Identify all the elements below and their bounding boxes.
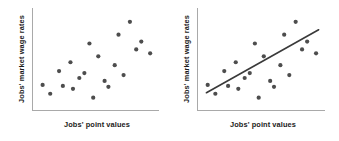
data-point (116, 33, 120, 37)
data-point (61, 84, 65, 88)
data-point (253, 41, 257, 45)
data-point (71, 87, 75, 91)
data-point (314, 51, 318, 55)
data-point (57, 69, 61, 73)
data-point (213, 92, 217, 96)
data-point (96, 54, 100, 58)
data-point (268, 79, 272, 83)
data-point (121, 73, 125, 77)
chart-panel-right: Jobs' point values Jobs' market wage rat… (169, 0, 339, 141)
data-point (248, 71, 252, 75)
data-point (234, 60, 238, 64)
data-point (287, 73, 291, 77)
data-point (128, 20, 132, 24)
data-point (41, 83, 45, 87)
data-point (300, 47, 304, 51)
scatter-plot-figure: Jobs' point values Jobs' market wage rat… (0, 0, 339, 141)
data-point (77, 76, 81, 80)
data-point (82, 71, 86, 75)
data-point (222, 69, 226, 73)
data-point (262, 54, 266, 58)
data-points-right (206, 20, 319, 100)
data-point (282, 33, 286, 37)
x-axis-label-right: Jobs' point values (230, 120, 296, 129)
scatter-chart-right: Jobs' point values Jobs' market wage rat… (169, 0, 339, 141)
data-point (113, 63, 117, 67)
regression-trend-line (206, 30, 318, 93)
data-point (134, 47, 138, 51)
data-point (48, 92, 52, 96)
data-point (139, 39, 143, 43)
data-point (68, 60, 72, 64)
data-point (91, 96, 95, 100)
data-point (206, 83, 210, 87)
data-point (87, 41, 91, 45)
data-point (236, 87, 240, 91)
data-point (272, 85, 276, 89)
y-axis-label-right: Jobs' market wage rates (182, 15, 191, 103)
data-point (226, 84, 230, 88)
data-point (148, 51, 152, 55)
x-axis-label-left: Jobs' point values (64, 120, 130, 129)
data-point (103, 79, 107, 83)
data-point (257, 96, 261, 100)
data-point (305, 39, 309, 43)
y-axis-label-left: Jobs' market wage rates (17, 15, 26, 103)
data-point (278, 63, 282, 67)
data-point (106, 85, 110, 89)
data-point (294, 20, 298, 24)
scatter-chart-left: Jobs' point values Jobs' market wage rat… (0, 0, 169, 141)
data-point (243, 76, 247, 80)
data-points-left (41, 20, 153, 100)
chart-panel-left: Jobs' point values Jobs' market wage rat… (0, 0, 169, 141)
